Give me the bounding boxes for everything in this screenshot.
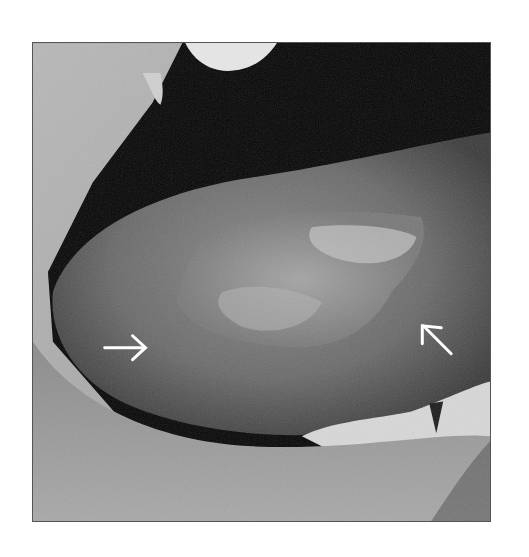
- tongue-image: [33, 43, 490, 521]
- clinical-photo: [32, 42, 491, 522]
- texture-overlay: [33, 43, 490, 521]
